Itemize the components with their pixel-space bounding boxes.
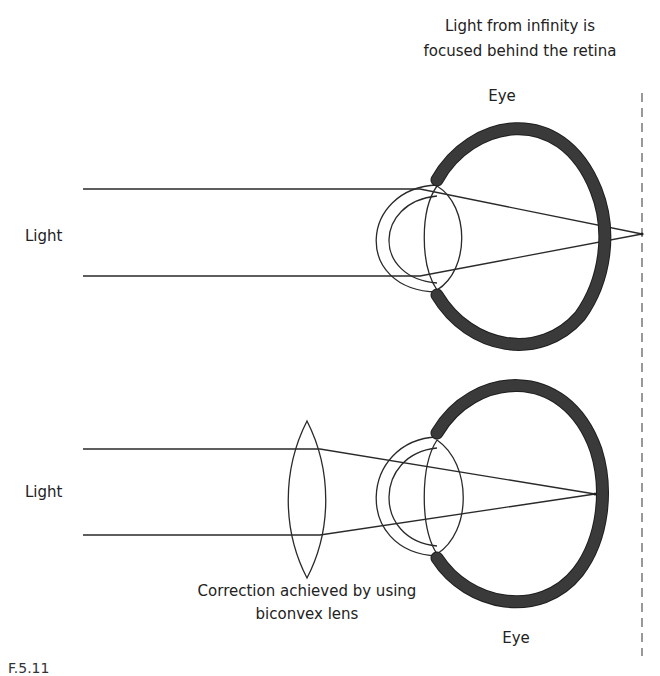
biconvex-lens: [288, 421, 326, 578]
bottom-sclera: [437, 386, 602, 602]
top-ray-lower: [83, 234, 642, 276]
top-crystalline-lens: [424, 186, 462, 290]
figure-caption-partial: F.5.11: [8, 660, 49, 676]
bottom-ray-lower: [83, 494, 595, 535]
top-ray-upper: [83, 189, 642, 234]
top-cornea-inner: [389, 196, 437, 283]
top-eye-panel: [83, 129, 644, 345]
top-focal-point: [640, 232, 643, 235]
bottom-crystalline-lens: [424, 440, 463, 554]
bottom-ray-upper: [83, 449, 595, 494]
bottom-cornea-outer: [376, 437, 437, 556]
bottom-eye-panel: [83, 386, 602, 602]
bottom-cornea-inner: [389, 448, 437, 546]
bottom-focal-point: [593, 492, 596, 495]
